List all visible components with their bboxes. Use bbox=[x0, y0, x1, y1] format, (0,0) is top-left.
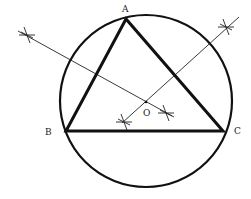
center-label-o: O bbox=[143, 108, 150, 118]
vertex-label-b: B bbox=[45, 127, 52, 137]
arc-mark-ab-inner-icon bbox=[158, 105, 174, 121]
vertex-label-c: C bbox=[234, 126, 241, 136]
arc-mark-ab-outer-icon bbox=[19, 27, 35, 43]
center-point-o bbox=[145, 101, 148, 104]
arc-mark-ac-outer-icon bbox=[218, 19, 234, 35]
circumcircle-diagram: A B C O bbox=[0, 0, 251, 199]
vertex-label-a: A bbox=[121, 4, 129, 14]
